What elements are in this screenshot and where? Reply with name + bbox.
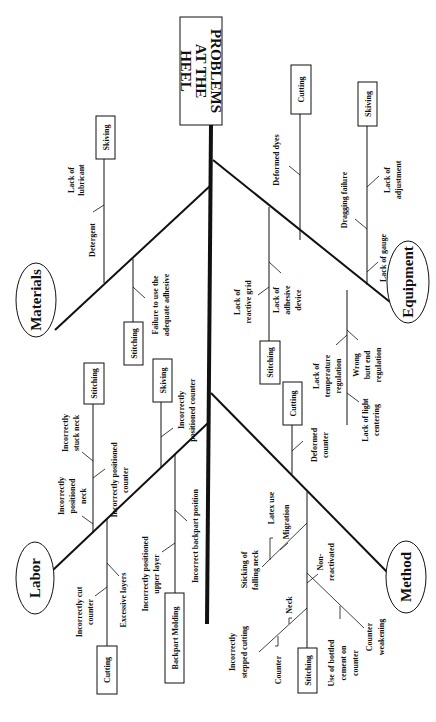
svg-text:upper layer: upper layer <box>152 554 161 594</box>
svg-text:Incorrect backpart position: Incorrect backpart position <box>191 488 200 583</box>
svg-text:Deformed dyes: Deformed dyes <box>272 134 281 185</box>
svg-text:adequate adhesive: adequate adhesive <box>162 273 171 336</box>
category-labor: Labor Stitching Incorrectly stuck neck I… <box>16 359 208 694</box>
svg-text:Deformed: Deformed <box>310 427 319 462</box>
svg-text:reactivated: reactivated <box>327 542 336 581</box>
svg-text:stepped cutting: stepped cutting <box>240 626 249 678</box>
fishbone-diagram: PROBLEMS AT THE HEEL Materials Skiving L… <box>0 0 436 722</box>
svg-text:weakening: weakening <box>377 619 386 655</box>
svg-text:Latex use: Latex use <box>267 491 276 524</box>
svg-text:falling neck: falling neck <box>251 550 260 590</box>
svg-text:adjustment: adjustment <box>394 160 403 199</box>
svg-text:centering: centering <box>372 404 381 436</box>
box-labor-cutting: Cutting <box>103 657 112 683</box>
svg-text:Failure to use the: Failure to use the <box>151 275 160 335</box>
box-labor-backpart-molding: Backpart Molding <box>171 607 180 670</box>
svg-text:positioned: positioned <box>68 478 77 514</box>
spine <box>207 125 211 624</box>
svg-text:Wrong: Wrong <box>352 353 361 377</box>
svg-text:reactive grid: reactive grid <box>244 280 253 324</box>
svg-text:counter: counter <box>121 466 130 493</box>
category-method: Method Cutting Deformed counter Stitchin… <box>211 382 426 693</box>
head-line-2: AT THE <box>193 44 209 99</box>
svg-text:Incorrectly positioned: Incorrectly positioned <box>110 442 119 518</box>
box-method-cutting: Cutting <box>289 390 298 416</box>
box-materials-skiving: Skiving <box>102 125 111 151</box>
category-materials: Materials Skiving Lack of lubricant Dete… <box>16 116 210 365</box>
svg-text:Lack of: Lack of <box>312 363 321 389</box>
svg-text:Neck: Neck <box>285 596 294 614</box>
svg-text:positioned counter: positioned counter <box>188 378 197 442</box>
svg-text:lubricant: lubricant <box>77 164 86 196</box>
category-label-labor: Labor <box>27 558 43 598</box>
svg-text:Use of bottled: Use of bottled <box>327 639 336 687</box>
svg-text:Lack of gauge: Lack of gauge <box>379 234 388 282</box>
box-equipment-cutting: Cutting <box>297 76 306 102</box>
svg-text:Counter: Counter <box>274 655 283 684</box>
svg-text:regulation: regulation <box>334 358 343 394</box>
box-method-stitching: Stitching <box>304 655 313 686</box>
problem-head: PROBLEMS AT THE HEEL <box>178 17 224 125</box>
svg-text:butt end: butt end <box>363 350 372 379</box>
svg-text:adhesive: adhesive <box>283 285 292 315</box>
box-labor-stitching: Stitching <box>90 368 99 399</box>
svg-text:Detergent: Detergent <box>88 223 97 257</box>
svg-text:counter: counter <box>86 598 95 625</box>
svg-text:Excessive layers: Excessive layers <box>119 573 128 628</box>
box-materials-stitching: Stitching <box>130 328 139 359</box>
svg-text:temperature: temperature <box>323 354 332 397</box>
head-line-3: HEEL <box>178 50 194 92</box>
svg-text:Dragging failure: Dragging failure <box>340 171 349 228</box>
svg-text:Sticking of: Sticking of <box>240 551 249 588</box>
svg-text:Incorrectly: Incorrectly <box>177 391 186 429</box>
svg-text:regulation: regulation <box>374 347 383 383</box>
svg-text:Lack of light: Lack of light <box>361 398 370 442</box>
svg-text:neck: neck <box>79 487 88 504</box>
svg-text:Incorrectly: Incorrectly <box>61 414 70 452</box>
svg-text:counter: counter <box>321 431 330 458</box>
svg-text:Incorrectly cut: Incorrectly cut <box>75 586 84 637</box>
svg-text:Incorrectly: Incorrectly <box>228 633 237 671</box>
svg-text:Lack of: Lack of <box>67 167 76 193</box>
category-label-method: Method <box>398 551 414 602</box>
svg-text:Incorrectly positioned: Incorrectly positioned <box>141 536 150 612</box>
category-equipment: Equipment Cutting Deformed dyes Skiving … <box>213 65 429 442</box>
box-labor-skiving: Skiving <box>159 368 168 394</box>
svg-text:Counter: Counter <box>365 622 374 651</box>
svg-text:counter: counter <box>351 649 360 676</box>
svg-text:cement on: cement on <box>339 645 348 680</box>
category-label-materials: Materials <box>28 269 44 331</box>
category-label-equipment: Equipment <box>400 246 416 318</box>
svg-text:Lack of: Lack of <box>383 167 392 193</box>
box-equipment-skiving: Skiving <box>364 91 373 117</box>
svg-text:Lack of: Lack of <box>233 289 242 315</box>
box-equipment-stitching: Stitching <box>266 347 275 378</box>
svg-text:device: device <box>294 289 303 311</box>
svg-text:Non-: Non- <box>316 553 325 570</box>
svg-text:Migration: Migration <box>282 504 291 539</box>
svg-text:Lack of: Lack of <box>272 287 281 313</box>
head-line-1: PROBLEMS <box>208 29 224 113</box>
svg-text:stuck neck: stuck neck <box>72 414 81 451</box>
svg-text:Incorrectly: Incorrectly <box>57 477 66 515</box>
